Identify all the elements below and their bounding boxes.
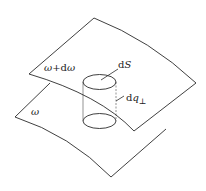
lower-surface-label: ω bbox=[31, 106, 39, 117]
upper-surface-label: ω+dω bbox=[44, 62, 75, 73]
upper-surface bbox=[29, 18, 196, 131]
area-element-label: dS bbox=[118, 59, 131, 70]
diagram-canvas: ω+dω ω dS dq⊥ bbox=[0, 0, 206, 191]
cylinder-bottom bbox=[83, 114, 116, 129]
